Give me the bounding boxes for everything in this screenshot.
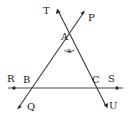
point-label-r: R (7, 74, 15, 84)
line-tu (58, 11, 106, 107)
point-label-u: U (109, 101, 117, 111)
point-label-p: P (88, 13, 95, 23)
endpoint-dot-s (115, 86, 118, 89)
angle-label-x: x (67, 47, 72, 55)
point-label-c: C (92, 75, 100, 85)
geometry-figure: T P A x R B C S Q U (0, 0, 128, 119)
arrowhead-q (17, 105, 22, 110)
point-label-t: T (43, 6, 50, 16)
point-label-b: B (23, 75, 30, 85)
point-label-s: S (108, 74, 115, 84)
line-qp (19, 12, 84, 107)
arrowhead-p (80, 11, 85, 16)
point-label-a: A (61, 32, 68, 42)
point-label-q: Q (27, 102, 35, 112)
endpoint-dot-r (12, 86, 15, 89)
